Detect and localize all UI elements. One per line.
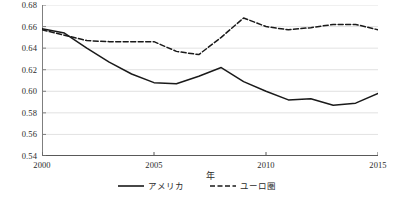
y-tick-label: 0.58	[22, 109, 37, 118]
plot-area: 0.540.560.580.600.620.640.660.68 2000200…	[42, 5, 378, 156]
y-tick-label: 0.68	[22, 1, 37, 10]
legend-item-eurozone: ユーロ圏	[210, 182, 276, 191]
legend-label-america: アメリカ	[148, 182, 184, 191]
legend-item-america: アメリカ	[118, 182, 184, 191]
legend-swatch-solid-icon	[118, 182, 144, 190]
legend-swatch-dashed-icon	[210, 182, 236, 190]
line-chart-canvas	[42, 5, 378, 156]
y-tick-label: 0.56	[22, 130, 37, 139]
x-tick-label: 2010	[257, 161, 274, 170]
chart-figure: 0.540.560.580.600.620.640.660.68 2000200…	[0, 0, 393, 202]
y-tick-label: 0.64	[22, 44, 37, 53]
series-line-america	[42, 29, 378, 106]
series-line-eurozone	[42, 18, 378, 55]
x-axis-title: 年	[206, 172, 215, 181]
y-tick-label: 0.54	[22, 152, 37, 161]
y-tick-label: 0.66	[22, 22, 37, 31]
x-tick-label: 2015	[369, 161, 386, 170]
y-tick-label: 0.60	[22, 87, 37, 96]
x-tick-label: 2000	[33, 161, 50, 170]
chart-legend: アメリカ ユーロ圏	[0, 182, 393, 191]
x-tick-label: 2005	[145, 161, 162, 170]
legend-label-eurozone: ユーロ圏	[240, 182, 276, 191]
y-tick-label: 0.62	[22, 65, 37, 74]
